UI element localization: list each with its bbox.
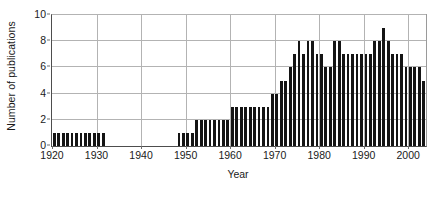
bar bbox=[235, 107, 238, 146]
y-axis-title: Number of publications bbox=[0, 0, 22, 152]
bar bbox=[93, 133, 96, 146]
plot-area bbox=[51, 14, 427, 147]
bar bbox=[347, 54, 350, 146]
bar bbox=[204, 120, 207, 146]
bar bbox=[413, 67, 416, 146]
y-axis-tick-mark bbox=[47, 92, 50, 93]
x-axis-tick-label: 1940 bbox=[121, 150, 161, 161]
bar bbox=[298, 41, 301, 146]
bar bbox=[378, 41, 381, 146]
y-axis-tick-label: 4 bbox=[22, 87, 46, 98]
bar bbox=[53, 133, 56, 146]
bar-series bbox=[52, 15, 426, 146]
bar bbox=[66, 133, 69, 146]
bar bbox=[213, 120, 216, 146]
y-axis-tick-mark bbox=[47, 118, 50, 119]
bar bbox=[293, 54, 296, 146]
x-axis-tick-label: 1980 bbox=[299, 150, 339, 161]
x-axis-tick-label: 1960 bbox=[210, 150, 250, 161]
y-axis-tick-label: 2 bbox=[22, 114, 46, 125]
bar bbox=[418, 67, 421, 146]
bar bbox=[102, 133, 105, 146]
bar bbox=[262, 107, 265, 146]
bar bbox=[195, 120, 198, 146]
bar bbox=[182, 133, 185, 146]
y-axis-tick-labels: 0246810 bbox=[22, 0, 50, 152]
bar bbox=[218, 120, 221, 146]
bar bbox=[333, 41, 336, 146]
bar bbox=[324, 67, 327, 146]
bar bbox=[391, 54, 394, 146]
x-axis-tick-labels: 192019301940195019601970198019902000 bbox=[51, 146, 427, 166]
bar bbox=[338, 41, 341, 146]
bar bbox=[88, 133, 91, 146]
bar bbox=[275, 94, 278, 146]
bar bbox=[57, 133, 60, 146]
x-axis-tick-label: 1970 bbox=[255, 150, 295, 161]
x-axis-tick-label: 2000 bbox=[388, 150, 428, 161]
bar bbox=[387, 41, 390, 146]
bar bbox=[280, 81, 283, 147]
bar bbox=[396, 54, 399, 146]
bar bbox=[267, 107, 270, 146]
bar bbox=[84, 133, 87, 146]
bar bbox=[240, 107, 243, 146]
bar bbox=[307, 41, 310, 146]
bar bbox=[222, 120, 225, 146]
y-axis-tick-mark bbox=[47, 40, 50, 41]
x-axis-tick-label: 1990 bbox=[344, 150, 384, 161]
x-axis-tick-label: 1930 bbox=[77, 150, 117, 161]
bar bbox=[351, 54, 354, 146]
bar bbox=[71, 133, 74, 146]
bar bbox=[209, 120, 212, 146]
bar bbox=[311, 41, 314, 146]
bar bbox=[329, 67, 332, 146]
bar bbox=[342, 54, 345, 146]
bar bbox=[186, 133, 189, 146]
bar bbox=[191, 133, 194, 146]
bar bbox=[80, 133, 83, 146]
bar bbox=[365, 54, 368, 146]
x-axis-tick-label: 1920 bbox=[32, 150, 72, 161]
x-axis-title: Year bbox=[51, 168, 425, 180]
bar bbox=[258, 107, 261, 146]
bar bbox=[360, 54, 363, 146]
bar bbox=[302, 54, 305, 146]
bar bbox=[271, 94, 274, 146]
bar bbox=[226, 120, 229, 146]
bar bbox=[62, 133, 65, 146]
bar bbox=[200, 120, 203, 146]
bar bbox=[400, 54, 403, 146]
bar bbox=[75, 133, 78, 146]
bar bbox=[369, 54, 372, 146]
bar bbox=[231, 107, 234, 146]
x-axis-tick-label: 1950 bbox=[166, 150, 206, 161]
y-axis-tick-mark bbox=[47, 66, 50, 67]
bar bbox=[356, 54, 359, 146]
bar bbox=[178, 133, 181, 146]
bar bbox=[382, 28, 385, 146]
bar bbox=[249, 107, 252, 146]
y-axis-tick-label: 10 bbox=[22, 9, 46, 20]
bar bbox=[320, 54, 323, 146]
bar bbox=[289, 67, 292, 146]
y-axis-tick-mark bbox=[47, 145, 50, 146]
bar bbox=[373, 41, 376, 146]
bar bbox=[422, 81, 425, 147]
bar bbox=[253, 107, 256, 146]
bar bbox=[316, 54, 319, 146]
y-axis-title-text: Number of publications bbox=[5, 21, 17, 131]
bar bbox=[409, 67, 412, 146]
bar bbox=[284, 81, 287, 147]
bar bbox=[244, 107, 247, 146]
y-axis-tick-mark bbox=[47, 14, 50, 15]
y-axis-tick-label: 8 bbox=[22, 35, 46, 46]
bar bbox=[405, 67, 408, 146]
y-axis-tick-label: 6 bbox=[22, 61, 46, 72]
bar bbox=[97, 133, 100, 146]
publications-per-year-chart: Number of publications 0246810 192019301… bbox=[0, 0, 441, 198]
